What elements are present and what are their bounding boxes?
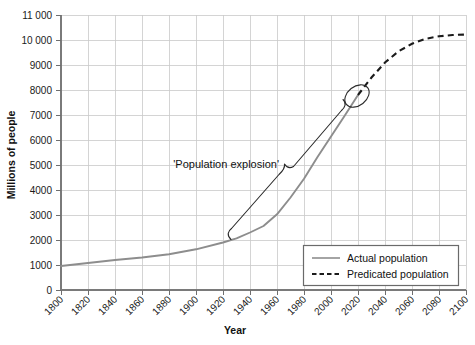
y-tick-label: 2000 — [30, 235, 53, 246]
y-tick-label: 9000 — [30, 60, 53, 71]
y-tick-label: 7000 — [30, 110, 53, 121]
y-tick-label: 5000 — [30, 160, 53, 171]
chart-canvas: 0 1000 2000 3000 4000 5000 6000 7000 800… — [0, 0, 475, 345]
chart-legend: Actual population Predicated population — [304, 246, 459, 286]
population-growth-chart: 0 1000 2000 3000 4000 5000 6000 7000 800… — [0, 0, 475, 345]
y-tick-label: 3000 — [30, 210, 53, 221]
legend-label-predicated-population: Predicated population — [347, 268, 449, 280]
y-tick-label: 4000 — [30, 185, 53, 196]
legend-label-actual-population: Actual population — [347, 252, 428, 264]
y-tick-label: 8000 — [30, 85, 53, 96]
chart-background — [0, 0, 475, 345]
y-tick-label: 0 — [46, 285, 52, 296]
x-axis-title: Year — [224, 324, 246, 336]
population-explosion-annotation: 'Population explosion' — [173, 158, 279, 170]
y-tick-label: 1000 — [30, 260, 53, 271]
y-axis-title: Millions of people — [5, 111, 17, 200]
y-tick-label: 6000 — [30, 135, 53, 146]
y-tick-label: 11 000 — [22, 10, 52, 21]
y-tick-label: 10 000 — [21, 35, 52, 46]
